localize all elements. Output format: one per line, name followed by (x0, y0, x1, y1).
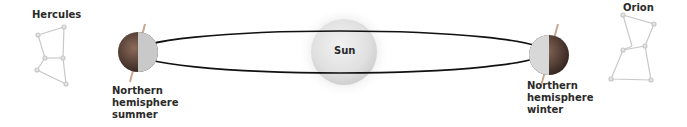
hercules-constellation (35, 25, 68, 86)
earth-summer (118, 24, 158, 82)
winter-line1: Northern (527, 80, 593, 92)
orion-constellation (609, 13, 656, 82)
sun-label: Sun (334, 45, 355, 57)
summer-line2: hemisphere (112, 97, 178, 109)
winter-line2: hemisphere (527, 92, 593, 104)
orion-label: Orion (623, 2, 654, 14)
summer-label: Northern hemisphere summer (112, 85, 178, 121)
winter-label: Northern hemisphere winter (527, 80, 593, 116)
summer-line3: summer (112, 109, 178, 121)
summer-line1: Northern (112, 85, 178, 97)
hercules-label: Hercules (32, 9, 81, 21)
winter-line3: winter (527, 104, 593, 116)
earth-winter (529, 24, 569, 86)
